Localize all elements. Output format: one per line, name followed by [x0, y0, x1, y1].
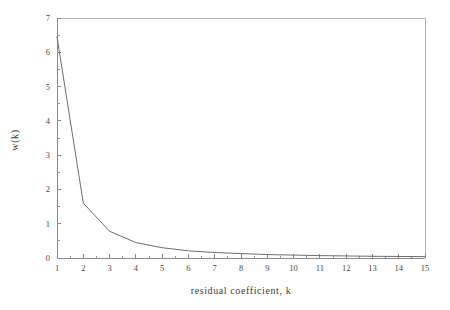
- x-tick-label: 1: [55, 263, 59, 273]
- line-chart: 123456789101112131415 01234567 residual …: [0, 0, 450, 310]
- x-tick-label: 14: [394, 263, 403, 273]
- x-tick-label: 11: [316, 263, 324, 273]
- y-tick-label: 5: [46, 82, 50, 92]
- x-tick-label: 12: [342, 263, 351, 273]
- x-tick-label: 4: [134, 263, 139, 273]
- y-tick-label: 0: [46, 253, 50, 263]
- y-tick-label: 4: [46, 116, 51, 126]
- x-tick-label: 6: [186, 263, 190, 273]
- x-tick-label: 7: [213, 263, 217, 273]
- chart-page: 123456789101112131415 01234567 residual …: [0, 0, 450, 310]
- y-axis-title: w(k): [9, 129, 21, 150]
- x-tick-label: 10: [289, 263, 298, 273]
- y-tick-label: 7: [46, 13, 50, 23]
- x-tick-label: 9: [265, 263, 269, 273]
- x-tick-label: 5: [160, 263, 164, 273]
- x-tick-label: 2: [81, 263, 85, 273]
- y-tick-label: 6: [46, 47, 50, 57]
- x-tick-label: 13: [368, 263, 377, 273]
- y-tick-label: 3: [46, 150, 50, 160]
- y-tick-label: 2: [46, 184, 50, 194]
- x-tick-label: 8: [239, 263, 243, 273]
- x-tick-label: 3: [107, 263, 111, 273]
- x-tick-label: 15: [421, 263, 430, 273]
- y-tick-label: 1: [46, 219, 50, 229]
- x-axis-title: residual coefficient, k: [191, 285, 292, 296]
- plot-area: [57, 18, 425, 258]
